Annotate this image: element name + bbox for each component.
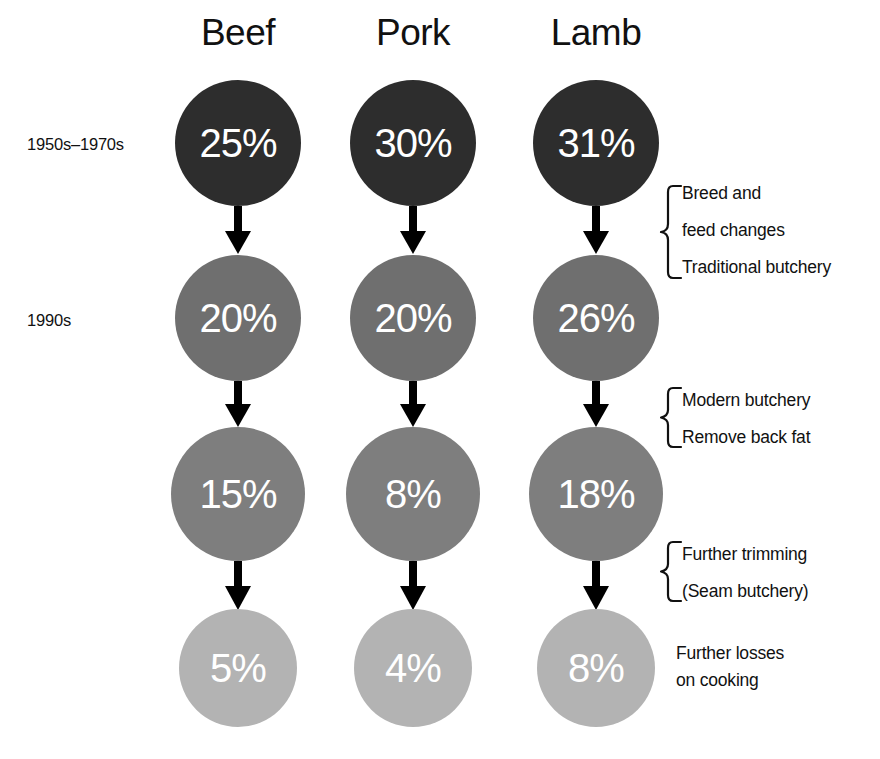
node-value: 8%: [568, 648, 624, 688]
node-value: 26%: [557, 298, 634, 338]
node-lamb-stage4[interactable]: 8%: [537, 609, 655, 727]
annotation-2-line-2: Remove back fat: [682, 429, 810, 447]
annotation-3-line-1: Further trimming: [682, 546, 807, 564]
annotation-4-line-1: Further losses: [676, 645, 784, 663]
arrow-beef-row1-to-row2: [223, 206, 253, 255]
node-value: 15%: [199, 474, 276, 514]
node-beef-1990s[interactable]: 20%: [175, 255, 301, 381]
node-pork-1950s-1970s[interactable]: 30%: [350, 80, 476, 206]
node-value: 25%: [199, 123, 276, 163]
arrow-beef-row3-to-row4: [223, 561, 253, 611]
annotation-2-line-1: Modern butchery: [682, 392, 810, 410]
node-value: 5%: [210, 648, 266, 688]
node-value: 18%: [557, 474, 634, 514]
node-value: 8%: [385, 474, 441, 514]
node-beef-stage4[interactable]: 5%: [179, 609, 297, 727]
row-label-1950s-1970s: 1950s–1970s: [27, 135, 124, 154]
node-pork-1990s[interactable]: 20%: [350, 255, 476, 381]
annotation-1-line-3: Traditional butchery: [682, 259, 831, 277]
arrow-lamb-row1-to-row2: [581, 206, 611, 255]
column-header-beef: Beef: [201, 12, 275, 54]
brace-icon-annotation-2: [659, 386, 683, 449]
arrow-lamb-row2-to-row3: [581, 381, 611, 428]
node-value: 31%: [557, 123, 634, 163]
arrow-beef-row2-to-row3: [223, 381, 253, 428]
node-value: 30%: [374, 123, 451, 163]
brace-icon-annotation-1: [659, 184, 683, 280]
annotation-1-line-1: Breed and: [682, 185, 761, 203]
annotation-4-line-2: on cooking: [676, 672, 759, 690]
node-lamb-stage3[interactable]: 18%: [529, 427, 663, 561]
node-value: 4%: [385, 648, 441, 688]
annotation-3-line-2: (Seam butchery): [682, 583, 808, 601]
node-value: 20%: [199, 298, 276, 338]
node-beef-stage3[interactable]: 15%: [171, 427, 305, 561]
column-header-lamb: Lamb: [551, 12, 642, 54]
annotation-1-line-2: feed changes: [682, 222, 785, 240]
node-value: 20%: [374, 298, 451, 338]
node-pork-stage4[interactable]: 4%: [354, 609, 472, 727]
brace-icon-annotation-3: [659, 540, 683, 603]
node-lamb-1990s[interactable]: 26%: [533, 255, 659, 381]
column-header-pork: Pork: [376, 12, 450, 54]
arrow-pork-row2-to-row3: [398, 381, 428, 428]
arrow-pork-row1-to-row2: [398, 206, 428, 255]
node-pork-stage3[interactable]: 8%: [346, 427, 480, 561]
arrow-pork-row3-to-row4: [398, 561, 428, 611]
arrow-lamb-row3-to-row4: [581, 561, 611, 611]
diagram-canvas: Beef Pork Lamb 1950s–1970s 1990s: [0, 0, 880, 759]
node-lamb-1950s-1970s[interactable]: 31%: [533, 80, 659, 206]
node-beef-1950s-1970s[interactable]: 25%: [175, 80, 301, 206]
row-label-1990s: 1990s: [27, 311, 71, 330]
